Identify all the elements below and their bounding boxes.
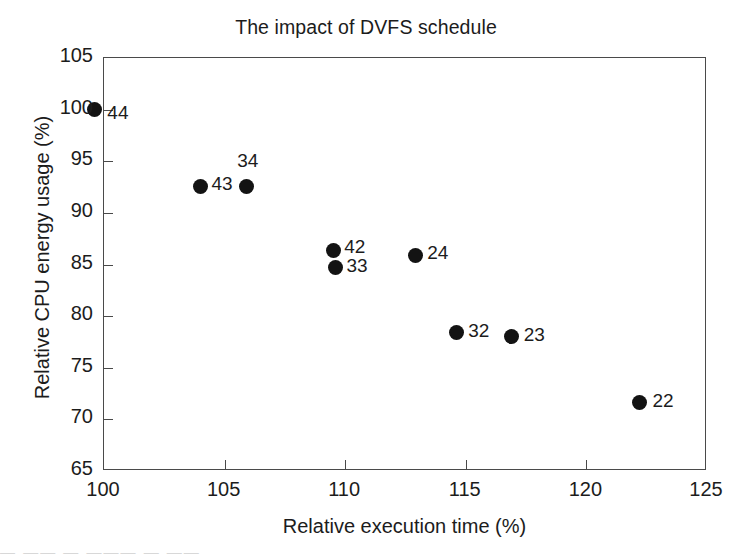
y-tick-mark	[104, 265, 113, 266]
data-point-42	[326, 243, 341, 258]
data-point-label-33: 33	[347, 255, 368, 277]
x-tick-label-115: 115	[425, 478, 505, 501]
plot-area	[103, 57, 706, 470]
data-point-23	[504, 329, 519, 344]
data-point-32	[449, 325, 464, 340]
x-tick-mark	[345, 460, 346, 469]
data-point-label-24: 24	[427, 242, 448, 264]
data-point-34	[239, 179, 254, 194]
x-tick-mark	[466, 460, 467, 469]
data-point-label-23: 23	[524, 324, 545, 346]
x-tick-label-120: 120	[545, 478, 625, 501]
y-tick-mark	[104, 316, 113, 317]
x-tick-mark	[586, 460, 587, 469]
data-point-label-44: 44	[107, 102, 128, 124]
scan-artifact: — —— — ——— — ——	[0, 543, 732, 557]
y-tick-mark	[104, 368, 113, 369]
x-tick-label-105: 105	[184, 478, 264, 501]
y-tick-mark	[104, 419, 113, 420]
data-point-label-43: 43	[211, 173, 232, 195]
data-point-label-34: 34	[237, 150, 258, 172]
x-tick-label-100: 100	[63, 478, 143, 501]
x-tick-label-125: 125	[666, 478, 732, 501]
data-point-33	[328, 260, 343, 275]
data-point-22	[632, 395, 647, 410]
data-point-label-32: 32	[468, 320, 489, 342]
chart-title: The impact of DVFS schedule	[0, 16, 732, 39]
chart-figure: The impact of DVFS schedule 657075808590…	[0, 0, 732, 557]
data-point-43	[193, 179, 208, 194]
x-tick-label-110: 110	[304, 478, 384, 501]
x-tick-mark	[225, 460, 226, 469]
x-axis-title: Relative execution time (%)	[103, 515, 706, 538]
y-tick-mark	[104, 213, 113, 214]
data-point-24	[408, 248, 423, 263]
y-axis-title: Relative CPU energy usage (%)	[31, 48, 54, 468]
data-point-label-22: 22	[652, 390, 673, 412]
y-tick-mark	[104, 161, 113, 162]
